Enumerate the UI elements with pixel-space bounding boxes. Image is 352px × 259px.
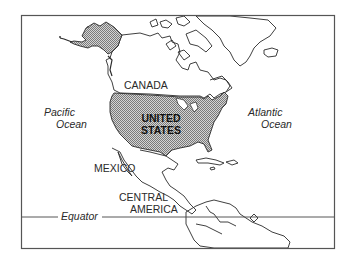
label-atlantic-line1: Atlantic xyxy=(248,107,282,118)
label-pacific-line2: Ocean xyxy=(56,119,87,130)
south-america-outline xyxy=(186,200,290,248)
label-pacific-line1: Pacific xyxy=(44,107,75,118)
label-central-line1: CENTRAL xyxy=(119,192,168,203)
label-atlantic-line2: Ocean xyxy=(261,119,292,130)
alaska-shape xyxy=(70,22,122,54)
label-united-states-line2: STATES xyxy=(133,125,189,136)
cuba-outline xyxy=(196,158,224,165)
iceland-outline xyxy=(264,48,278,57)
label-equator: Equator xyxy=(61,211,98,222)
label-central-line2: AMERICA xyxy=(130,204,178,215)
label-mexico: MEXICO xyxy=(94,163,135,174)
label-canada: CANADA xyxy=(124,80,168,91)
label-united-states-line1: UNITED xyxy=(133,113,189,124)
